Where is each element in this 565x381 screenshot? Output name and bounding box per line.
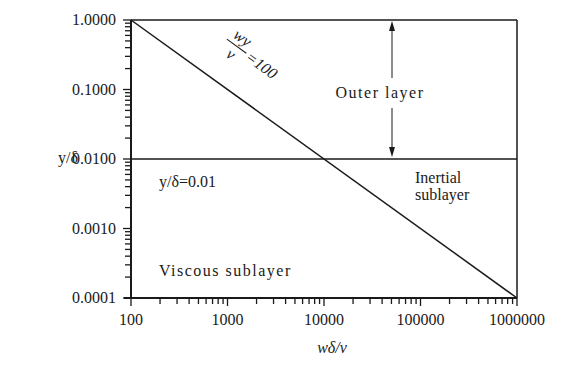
fraction-equals-100: =100 bbox=[243, 48, 281, 82]
x-tick-labels: 100 1000 10000 100000 1000000 bbox=[119, 311, 545, 328]
y-axis-title: y/δ bbox=[58, 149, 78, 167]
x-tick-label: 100000 bbox=[397, 311, 445, 328]
chart: 1.0000 0.1000 0.0100 0.0010 0.0001 100 1… bbox=[0, 0, 565, 381]
x-axis-title: wδ/ν bbox=[317, 339, 348, 356]
y-axis-ticks bbox=[123, 20, 131, 298]
viscous-sublayer-label: Viscous sublayer bbox=[159, 262, 292, 280]
y-tick-label: 0.1000 bbox=[72, 81, 116, 98]
diagonal-line-label: wy ν =100 bbox=[216, 24, 287, 90]
arrow-down-icon bbox=[389, 147, 395, 157]
arrow-up-icon bbox=[389, 21, 395, 31]
hline-label: y/δ=0.01 bbox=[159, 173, 216, 191]
x-tick-label: 1000 bbox=[212, 311, 244, 328]
outer-layer-label: Outer layer bbox=[336, 84, 425, 102]
inertial-sublayer-label-line2: sublayer bbox=[415, 186, 470, 204]
x-tick-label: 100 bbox=[119, 311, 143, 328]
x-tick-label: 1000000 bbox=[489, 311, 545, 328]
x-axis-ticks bbox=[131, 298, 517, 306]
inertial-sublayer-label-line1: Inertial bbox=[415, 169, 462, 186]
y-tick-label: 1.0000 bbox=[72, 11, 116, 28]
y-tick-label: 0.0010 bbox=[72, 220, 116, 237]
fraction-denominator: ν bbox=[223, 45, 239, 63]
y-tick-label: 0.0100 bbox=[72, 150, 116, 167]
y-tick-label: 0.0001 bbox=[72, 289, 116, 306]
x-tick-label: 10000 bbox=[304, 311, 344, 328]
y-tick-labels: 1.0000 0.1000 0.0100 0.0010 0.0001 bbox=[72, 11, 116, 306]
